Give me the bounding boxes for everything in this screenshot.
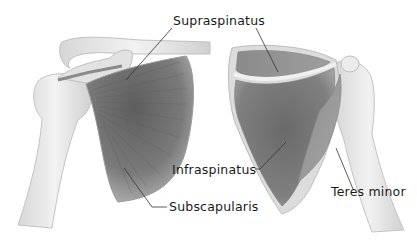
- label-infraspinatus: Infraspinatus: [172, 162, 256, 177]
- subscapularis-muscle: [86, 56, 194, 202]
- label-teres-minor: Teres minor: [331, 184, 406, 199]
- humerus-left: [18, 74, 92, 228]
- label-supraspinatus: Supraspinatus: [173, 13, 265, 28]
- humerus-right: [333, 61, 404, 232]
- acromion-right: [341, 56, 359, 72]
- rotator-cuff-diagram: Supraspinatus Infraspinatus Subscapulari…: [0, 0, 417, 241]
- label-subscapularis: Subscapularis: [169, 199, 259, 214]
